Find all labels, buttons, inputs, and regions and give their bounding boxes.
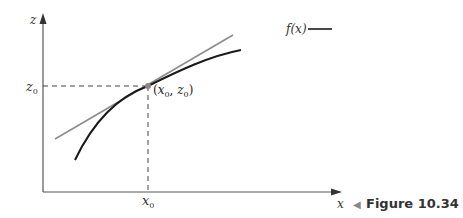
x-axis-arrow-icon bbox=[331, 189, 342, 196]
z-axis-label: z bbox=[29, 13, 37, 27]
curve-f bbox=[75, 50, 241, 160]
caption-marker-icon: ◀ bbox=[353, 199, 361, 210]
figure-caption: Figure 10.34 bbox=[366, 196, 459, 211]
legend-label: f(x) bbox=[285, 22, 307, 36]
z-axis-arrow-icon bbox=[40, 13, 47, 24]
figure-canvas: (x0, z0) z x z0 x0 f(x) ◀ Figure 10.34 bbox=[0, 0, 463, 218]
x-axis-label: x bbox=[337, 197, 344, 211]
point-label: (x0, z0) bbox=[153, 83, 193, 99]
tangent-point bbox=[145, 83, 151, 89]
x0-tick-label: x0 bbox=[142, 193, 154, 210]
z0-tick-label: z0 bbox=[25, 79, 38, 96]
